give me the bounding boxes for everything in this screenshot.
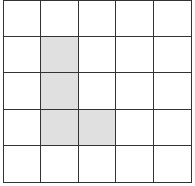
grid-cell (116, 1, 153, 37)
grid-cell (4, 73, 41, 109)
grid-cell (79, 146, 116, 182)
grid-cell (154, 73, 191, 109)
grid-cell (154, 37, 191, 73)
grid-cell (4, 1, 41, 37)
grid-cell (116, 37, 153, 73)
grid (3, 0, 192, 183)
grid-cell (116, 110, 153, 146)
grid-cell-filled (41, 110, 78, 146)
grid-cell (4, 37, 41, 73)
grid-cell-filled (41, 37, 78, 73)
grid-cell (154, 146, 191, 182)
grid-cell (79, 73, 116, 109)
grid-cell (79, 1, 116, 37)
grid-cell-filled (41, 73, 78, 109)
grid-cell (154, 1, 191, 37)
grid-cell-filled (79, 110, 116, 146)
grid-cell (4, 146, 41, 182)
grid-cell (116, 146, 153, 182)
grid-cell (4, 110, 41, 146)
grid-cell (116, 73, 153, 109)
grid-cell (154, 110, 191, 146)
grid-cell (79, 37, 116, 73)
grid-cell (41, 146, 78, 182)
grid-cell (41, 1, 78, 37)
